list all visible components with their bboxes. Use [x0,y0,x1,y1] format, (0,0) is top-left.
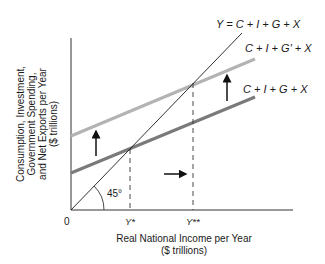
origin-label: 0 [64,216,70,227]
y-axis-title-line4: ($ trillions) [48,101,59,147]
tick-ystarstar: Y** [186,216,200,227]
y-axis-title-line2: Government Spending, [26,73,37,176]
tick-ystar: Y* [125,216,135,227]
line-45-degree [71,33,242,210]
keynesian-cross-diagram: Y = C + I + G + X C + I + G' + X C + I +… [0,0,325,264]
angle-arc [94,186,104,210]
x-axis-unit: ($ trillions) [161,245,207,256]
y-axis-title: Consumption, Investment, Government Spen… [15,66,59,182]
ad-line-old [71,97,255,173]
label-ad-old: C + I + G + X [243,83,308,95]
y-axis-title-line1: Consumption, Investment, [15,66,26,182]
y-axis-title-line3: and Net Exports per Year [37,67,48,179]
angle-label: 45° [107,188,122,199]
label-45-line: Y = C + I + G + X [216,18,301,30]
label-ad-new: C + I + G' + X [245,42,312,54]
x-axis-title: Real National Income per Year [116,233,252,244]
